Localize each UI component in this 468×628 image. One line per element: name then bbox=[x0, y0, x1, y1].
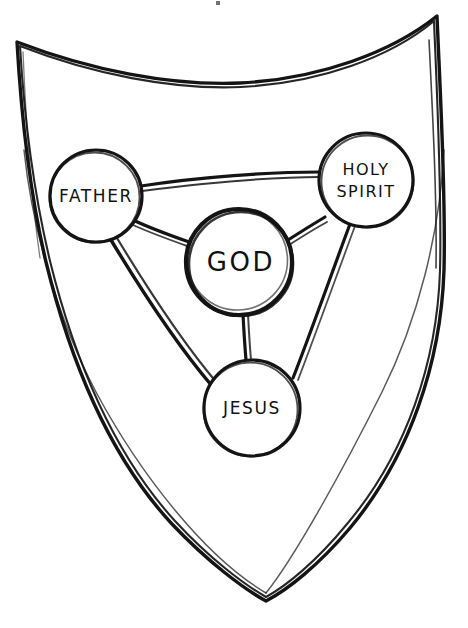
node-holy-spirit-label-line1: HOLY bbox=[342, 160, 389, 179]
node-god[interactable]: GOD bbox=[186, 209, 293, 316]
connector-god-holy-spirit bbox=[288, 217, 327, 245]
connector-father-god bbox=[133, 220, 190, 247]
node-god-label: GOD bbox=[207, 247, 275, 277]
shield-edge-right-highlight bbox=[429, 40, 436, 268]
connector-holy-spirit-jesus bbox=[293, 224, 355, 380]
node-holy-spirit[interactable]: HOLY SPIRIT bbox=[319, 133, 414, 228]
node-father[interactable]: FATHER bbox=[50, 150, 143, 243]
diagram-canvas: FATHER HOLY SPIRIT GOD JESUS bbox=[0, 0, 468, 628]
stray-ink-mark bbox=[216, 1, 220, 5]
connector-god-jesus bbox=[243, 314, 251, 360]
node-father-label: FATHER bbox=[59, 186, 133, 206]
connector-father-holy-spirit bbox=[141, 172, 320, 191]
shield-trinity-diagram: FATHER HOLY SPIRIT GOD JESUS bbox=[0, 0, 468, 628]
node-holy-spirit-label-line2: SPIRIT bbox=[336, 182, 395, 201]
node-jesus-label: JESUS bbox=[222, 398, 281, 418]
node-jesus[interactable]: JESUS bbox=[204, 360, 301, 457]
